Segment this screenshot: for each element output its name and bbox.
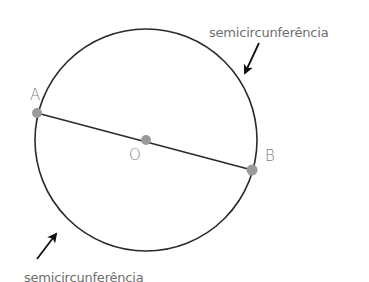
- point-b-dot: [247, 165, 258, 176]
- point-b-label: B: [265, 149, 275, 164]
- point-o-label: O: [129, 148, 141, 163]
- upper-semicircle-caption: semicircunferência: [209, 26, 329, 39]
- arrow-upper-icon: [245, 43, 259, 73]
- arrow-lower-icon: [37, 234, 56, 259]
- lower-semicircle-caption: semicircunferência: [24, 271, 144, 282]
- point-a-label: A: [30, 88, 40, 103]
- point-o-dot: [141, 135, 151, 145]
- point-a-dot: [32, 108, 42, 118]
- circle-diagram: [0, 0, 369, 282]
